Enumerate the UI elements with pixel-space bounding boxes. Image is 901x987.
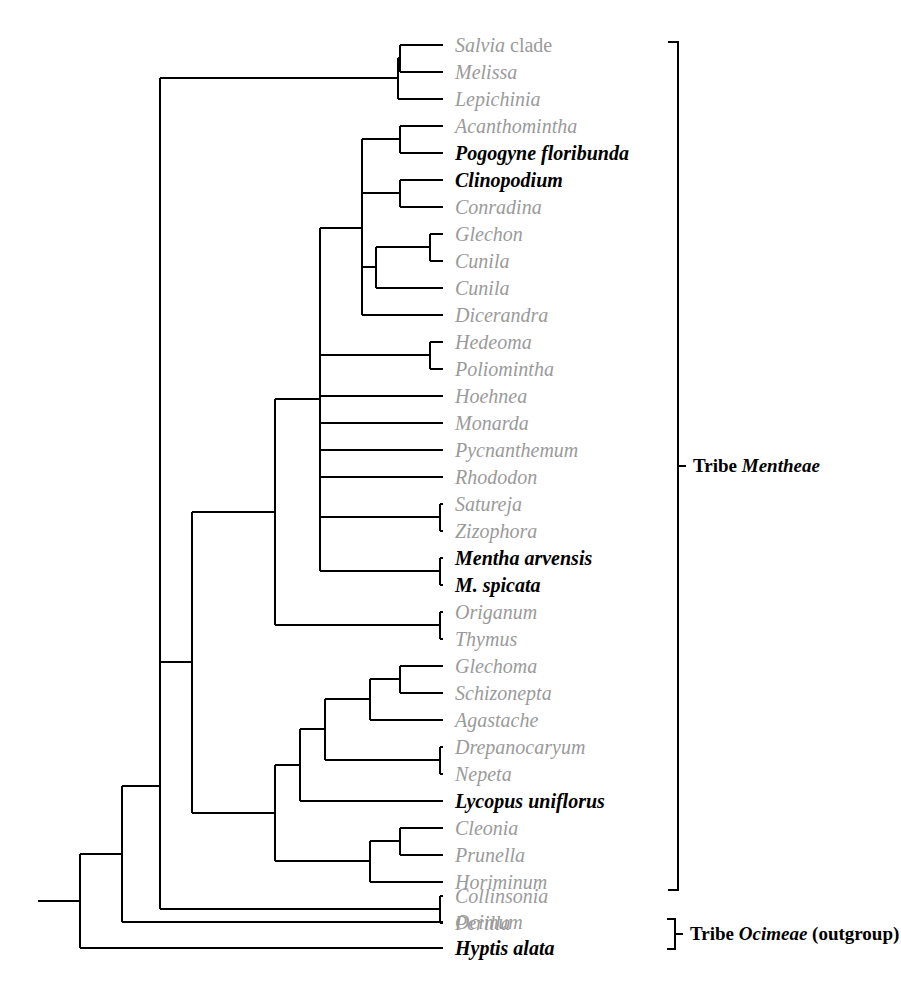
tip-label-clinopodium: Clinopodium [455, 170, 563, 190]
tip-label-glechoma: Glechoma [455, 656, 537, 676]
tip-label-nepeta: Nepeta [455, 764, 512, 784]
tip-label-satureja: Satureja [455, 494, 522, 514]
tip-label-ocimum: Ocimum [455, 912, 523, 932]
tip-label-origanum: Origanum [455, 602, 537, 622]
tip-label-pycnanthemum: Pycnanthemum [455, 440, 578, 460]
phylogenetic-tree-figure: Salvia clade Melissa Lepichinia Acanthom… [0, 0, 901, 987]
tip-label-salvia-clade: Salvia clade [455, 35, 552, 55]
tribe-label-ocimeae: Tribe Ocimeae (outgroup) [690, 923, 899, 945]
tip-label-drepanocaryum: Drepanocaryum [455, 737, 585, 757]
tip-label-mentha-arvensis: Mentha arvensis [455, 548, 592, 568]
tip-label-collinsonia: Collinsonia [455, 886, 548, 906]
tip-label-lycopus-uniflorus: Lycopus uniflorus [455, 791, 605, 811]
tip-label-rhododon: Rhododon [455, 467, 537, 487]
tip-label-mentha-spicata: M. spicata [455, 575, 541, 595]
tip-label-conradina: Conradina [455, 197, 542, 217]
tip-label-glechon: Glechon [455, 224, 523, 244]
tip-label-pogogyne-floribunda: Pogogyne floribunda [455, 143, 629, 163]
bracket-tribe-mentheae [668, 42, 678, 890]
tip-label-melissa: Melissa [455, 62, 517, 82]
tip-label-lepichinia: Lepichinia [455, 89, 541, 109]
tip-label-poliomintha: Poliomintha [455, 359, 554, 379]
tip-label-agastache: Agastache [455, 710, 538, 730]
tip-label-cunila-2: Cunila [455, 278, 509, 298]
tip-label-schizonepta: Schizonepta [455, 683, 552, 703]
bracket-tribe-ocimeae [667, 919, 675, 949]
tip-label-acanthomintha: Acanthomintha [455, 116, 577, 136]
tip-label-dicerandra: Dicerandra [455, 305, 548, 325]
tip-label-hoehnea: Hoehnea [455, 386, 527, 406]
tip-label-hedeoma: Hedeoma [455, 332, 532, 352]
tip-label-zizophora: Zizophora [455, 521, 537, 541]
tip-label-cunila-1: Cunila [455, 251, 509, 271]
tip-label-cleonia: Cleonia [455, 818, 518, 838]
tip-label-thymus: Thymus [455, 629, 517, 649]
tip-label-monarda: Monarda [455, 413, 529, 433]
tip-label-prunella: Prunella [455, 845, 525, 865]
cladogram-branches [0, 0, 901, 987]
tribe-label-mentheae: Tribe Mentheae [693, 455, 820, 477]
tip-label-hyptis-alata: Hyptis alata [455, 938, 554, 958]
